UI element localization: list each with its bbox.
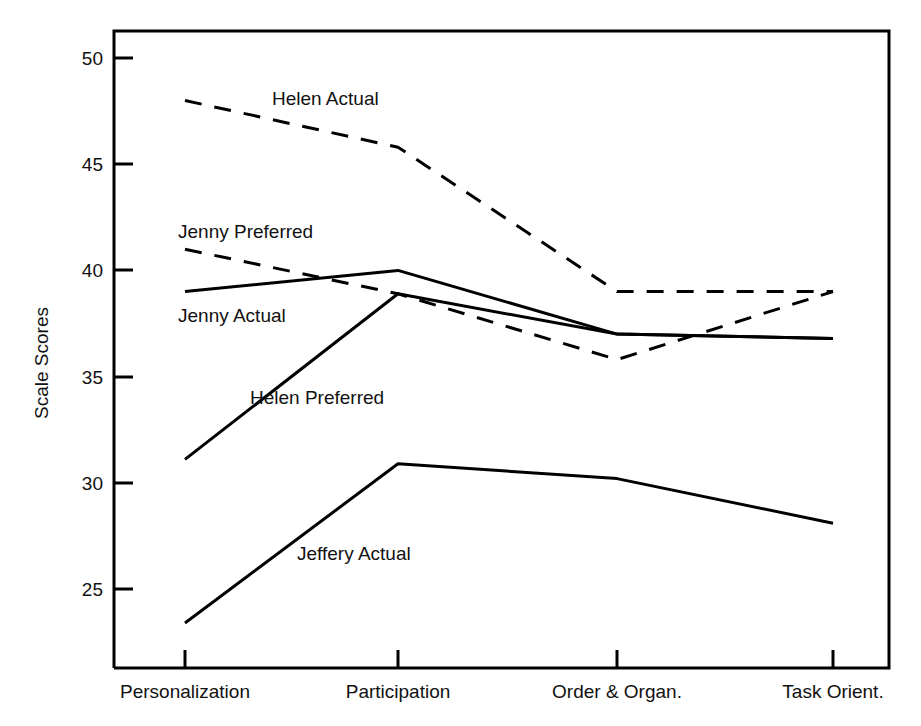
series-layer [185, 101, 833, 624]
series-annotation-layer: Helen ActualJenny PreferredJenny ActualH… [178, 88, 411, 564]
series-line-jeffery-actual [185, 464, 833, 623]
series-line-helen-actual [185, 101, 833, 292]
y-axis-title: Scale Scores [31, 307, 52, 419]
y-tick-label: 50 [82, 48, 103, 69]
series-label-jenny-preferred: Jenny Preferred [178, 221, 313, 242]
series-label-helen-preferred: Helen Preferred [250, 387, 384, 408]
y-tick-label: 35 [82, 367, 103, 388]
x-tick-label-participation: Participation [346, 681, 451, 702]
series-label-jenny-actual: Jenny Actual [178, 305, 286, 326]
y-axis-tick-labels: 50 45 40 35 30 25 [82, 48, 103, 600]
x-tick-label-order-organ: Order & Organ. [552, 681, 682, 702]
y-tick-label: 40 [82, 260, 103, 281]
series-label-jeffery-actual: Jeffery Actual [297, 543, 411, 564]
line-chart: 50 45 40 35 30 25 Scale Scores Personali… [0, 0, 921, 726]
y-tick-label: 30 [82, 473, 103, 494]
series-label-helen-actual: Helen Actual [272, 88, 379, 109]
plot-frame [114, 31, 889, 668]
x-axis-tick-labels: Personalization Participation Order & Or… [120, 681, 884, 702]
y-axis-ticks [114, 58, 133, 589]
x-tick-label-task-orient: Task Orient. [782, 681, 883, 702]
x-axis-ticks [185, 650, 833, 668]
x-tick-label-personalization: Personalization [120, 681, 250, 702]
chart-container: 50 45 40 35 30 25 Scale Scores Personali… [0, 0, 921, 726]
y-tick-label: 45 [82, 154, 103, 175]
y-tick-label: 25 [82, 579, 103, 600]
